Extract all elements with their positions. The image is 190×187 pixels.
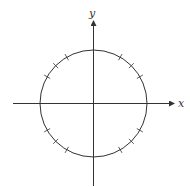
tick-240deg — [65, 147, 69, 153]
tick-60deg — [119, 54, 123, 60]
tick-210deg — [44, 129, 50, 133]
unit-circle-diagram: x y — [0, 0, 190, 187]
y-axis-label: y — [88, 7, 96, 20]
tick-30deg — [137, 75, 143, 79]
tick-150deg — [44, 75, 50, 79]
x-axis-label: x — [178, 97, 185, 110]
tick-330deg — [137, 129, 143, 133]
tick-120deg — [65, 54, 69, 60]
tick-300deg — [119, 147, 123, 153]
